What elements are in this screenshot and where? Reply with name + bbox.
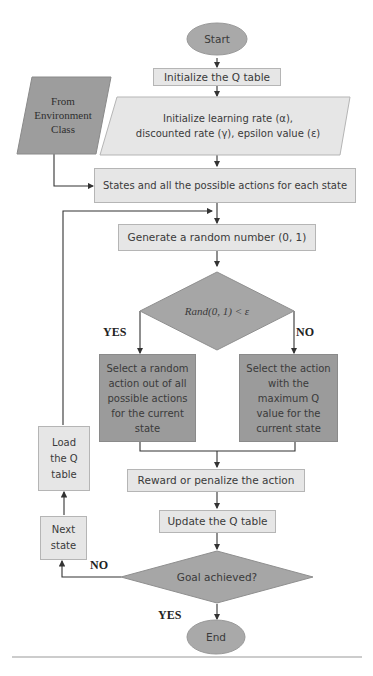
init-q-table-box: Initialize the Q table	[153, 68, 281, 86]
yes-label-explore: YES	[103, 325, 126, 340]
explore-line3: possible actions	[107, 391, 187, 406]
start-label: Start	[187, 30, 247, 48]
exploit-action-box: Select the action with the maximum Q val…	[239, 354, 338, 442]
decision-goal-label: Goal achieved?	[167, 568, 267, 586]
env-input-label: From Environment Class	[17, 84, 109, 146]
init-params-label: Initialize learning rate (α), discounted…	[110, 104, 346, 148]
end-label: End	[192, 628, 240, 646]
env-input-line2: Environment	[34, 108, 91, 122]
explore-line4: for the current	[111, 406, 184, 421]
reward-box: Reward or penalize the action	[127, 469, 305, 492]
decision-epsilon-label: Rand(0, 1) < ε	[170, 302, 264, 320]
next-state-box: Next state	[40, 516, 87, 560]
exploit-line1: Select the action	[246, 361, 330, 376]
yes-label-goal: YES	[158, 608, 181, 623]
generate-random-box: Generate a random number (0, 1)	[118, 224, 316, 251]
load-q-table-box: Load the Q table	[38, 426, 90, 491]
explore-action-box: Select a random action out of all possib…	[99, 354, 196, 442]
init-params-line1: Initialize learning rate (α),	[163, 111, 293, 126]
states-actions-box: States and all the possible actions for …	[94, 168, 356, 203]
load-line2: the Q	[50, 451, 77, 467]
load-line3: table	[51, 467, 76, 483]
explore-line1: Select a random	[106, 361, 188, 376]
explore-line5: state	[135, 421, 160, 436]
env-input-line3: Class	[51, 122, 75, 136]
exploit-line4: value for the	[257, 406, 321, 421]
no-label-exploit: NO	[296, 325, 314, 340]
exploit-line2: with the	[268, 376, 309, 391]
explore-line2: action out of all	[108, 376, 186, 391]
next-state-line1: Next	[52, 522, 75, 538]
env-input-line1: From	[51, 94, 75, 108]
exploit-line3: maximum Q	[258, 391, 319, 406]
update-q-table-box: Update the Q table	[159, 510, 276, 533]
load-line1: Load	[52, 435, 76, 451]
exploit-line5: current state	[256, 421, 321, 436]
init-params-line2: discounted rate (γ), epsilon value (ε)	[136, 126, 320, 141]
next-state-line2: state	[51, 538, 76, 554]
no-label-goal: NO	[90, 558, 108, 573]
